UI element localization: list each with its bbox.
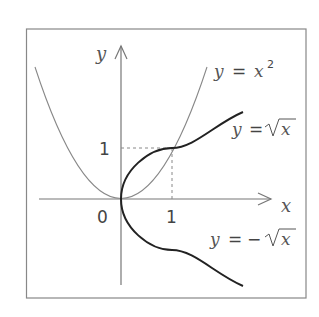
origin-label: 0	[97, 207, 108, 227]
y-axis-label: y	[95, 43, 107, 64]
sqrt-positive-label-lhs: y	[231, 119, 242, 139]
y-tick-label: 1	[99, 139, 110, 159]
parabola-label-exponent: 2	[267, 58, 274, 71]
sqrt-positive-label-eq: =	[249, 119, 263, 139]
x-tick-label: 1	[166, 207, 177, 227]
parabola-label-eq: =	[232, 61, 246, 81]
sqrt-negative-curve	[121, 199, 243, 286]
parabola-label-var: x	[254, 61, 264, 81]
x-axis	[39, 193, 271, 205]
sqrt-positive-label-var: x	[281, 119, 291, 139]
sqrt-positive-label: y = x	[231, 119, 296, 139]
sqrt-negative-label: y = − x	[209, 229, 296, 249]
y-axis	[115, 46, 127, 285]
diagram-frame	[27, 29, 307, 298]
parabola-label-lhs: y	[213, 61, 224, 81]
sqrt-negative-label-sign: −	[247, 229, 261, 249]
x-axis-label: x	[281, 195, 291, 216]
parabola-label: y = x 2	[213, 58, 274, 81]
sqrt-positive-curve	[121, 112, 243, 199]
sqrt-negative-label-var: x	[281, 229, 291, 249]
sqrt-negative-label-eq: =	[228, 229, 242, 249]
function-graph-diagram: y x 0 1 1 y = x 2 y = x y = − x	[0, 0, 319, 317]
sqrt-negative-label-lhs: y	[209, 229, 220, 249]
